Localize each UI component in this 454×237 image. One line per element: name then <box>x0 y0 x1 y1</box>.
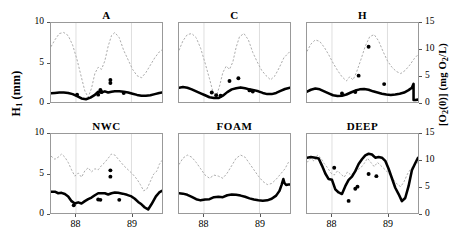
panel-title-nwc: NWC <box>51 120 162 132</box>
plot-area-c <box>179 23 290 102</box>
x-tickmark <box>132 214 133 217</box>
y-axis-right-label-pre: [O <box>437 114 448 126</box>
o2-data-point <box>214 93 218 97</box>
y-left-tick-label-5: 5 <box>22 168 44 178</box>
panel-nwc: NWC <box>50 133 163 214</box>
panel-title-h: H <box>307 9 418 21</box>
y-axis-left-units: (mm) <box>9 71 23 100</box>
panel-foam: FOAM <box>178 133 291 214</box>
x-tick-label-88: 88 <box>60 218 90 229</box>
y-right-tickmark <box>419 214 422 215</box>
o2-data-point <box>347 199 351 203</box>
o2-dashed-line-nwc <box>51 154 162 191</box>
o2-data-point <box>340 92 344 96</box>
panel-c: C <box>178 22 291 103</box>
h1-solid-line-c <box>179 87 290 98</box>
y-left-tickmark <box>47 63 50 64</box>
y-left-tick-label-0: 0 <box>22 97 44 107</box>
o2-data-point <box>367 45 371 49</box>
o2-data-point <box>122 91 126 95</box>
y-right-tickmark <box>419 49 422 50</box>
y-right-tickmark <box>419 133 422 134</box>
y-right-tick-label-15: 15 <box>425 16 441 26</box>
y-right-tick-label-5: 5 <box>425 70 441 80</box>
y-right-tick-label-0: 0 <box>425 208 441 218</box>
o2-dashed-line-foam <box>179 155 290 184</box>
y-right-tickmark <box>419 22 422 23</box>
o2-data-point <box>382 82 386 86</box>
o2-data-point <box>108 81 112 85</box>
panel-h: H <box>306 22 419 103</box>
x-tick-label-89: 89 <box>117 218 147 229</box>
o2-data-point <box>210 91 214 95</box>
o2-data-point <box>108 175 112 179</box>
y-axis-right-subscript-1: 2 <box>441 110 450 114</box>
o2-data-point <box>374 174 378 178</box>
x-tickmark <box>388 214 389 217</box>
h1-solid-line-deep <box>307 154 418 201</box>
o2-data-point <box>228 79 232 83</box>
y-left-tick-label-10: 10 <box>22 16 44 26</box>
h1-solid-line-nwc <box>51 191 162 210</box>
y-left-tick-label-0: 0 <box>22 208 44 218</box>
x-tick-label-89: 89 <box>245 218 275 229</box>
panel-title-c: C <box>179 9 290 21</box>
y-right-tick-label-10: 10 <box>425 43 441 53</box>
o2-data-point <box>367 172 371 176</box>
y-right-tickmark <box>419 103 422 104</box>
y-right-tickmark <box>419 160 422 161</box>
figure-root: H1 (mm) [O2(0)] (mg O2/L) A0510CH051015N… <box>0 0 454 237</box>
panel-title-a: A <box>51 9 162 21</box>
y-left-tick-label-5: 5 <box>22 57 44 67</box>
o2-data-point <box>356 185 360 189</box>
o2-data-point <box>117 198 121 202</box>
plot-area-a <box>51 23 162 102</box>
o2-data-point <box>251 90 255 94</box>
o2-data-point <box>100 90 104 94</box>
y-axis-left-label: H <box>9 107 23 117</box>
x-tickmark <box>203 214 204 217</box>
x-tick-label-88: 88 <box>316 218 346 229</box>
y-left-tickmark <box>47 22 50 23</box>
o2-data-point <box>108 168 112 172</box>
plot-area-foam <box>179 134 290 213</box>
y-left-tickmark <box>47 103 50 104</box>
x-tickmark <box>260 214 261 217</box>
panel-a: A <box>50 22 163 103</box>
y-right-tick-label-15: 15 <box>425 127 441 137</box>
plot-area-nwc <box>51 134 162 213</box>
o2-dashed-line-h <box>307 35 418 81</box>
y-right-tickmark <box>419 76 422 77</box>
plot-area-h <box>307 23 418 102</box>
h1-solid-line-h <box>307 84 418 100</box>
o2-data-point <box>219 94 223 98</box>
y-left-tickmark <box>47 133 50 134</box>
o2-data-point <box>72 203 76 207</box>
y-right-tick-label-10: 10 <box>425 154 441 164</box>
x-tick-label-88: 88 <box>188 218 218 229</box>
o2-dashed-line-a <box>51 32 162 97</box>
y-right-tickmark <box>419 187 422 188</box>
o2-data-point <box>248 88 252 92</box>
y-right-tick-label-0: 0 <box>425 97 441 107</box>
o2-data-point <box>332 166 336 170</box>
o2-data-point <box>353 90 357 94</box>
x-tick-label-89: 89 <box>373 218 403 229</box>
panel-deep: DEEP <box>306 133 419 214</box>
o2-data-point <box>98 198 102 202</box>
y-axis-right-subscript-2: 2 <box>441 57 450 61</box>
o2-data-point <box>357 74 361 78</box>
y-left-tickmark <box>47 214 50 215</box>
y-left-tickmark <box>47 174 50 175</box>
panel-title-foam: FOAM <box>179 120 290 132</box>
x-tickmark <box>75 214 76 217</box>
y-left-tick-label-10: 10 <box>22 127 44 137</box>
o2-data-point <box>75 93 79 97</box>
h1-solid-line-a <box>51 91 162 99</box>
y-right-tick-label-5: 5 <box>425 181 441 191</box>
plot-area-deep <box>307 134 418 213</box>
o2-data-point <box>236 76 240 80</box>
o2-dashed-line-c <box>179 34 290 97</box>
o2-data-point <box>96 93 100 97</box>
panel-title-deep: DEEP <box>307 120 418 132</box>
